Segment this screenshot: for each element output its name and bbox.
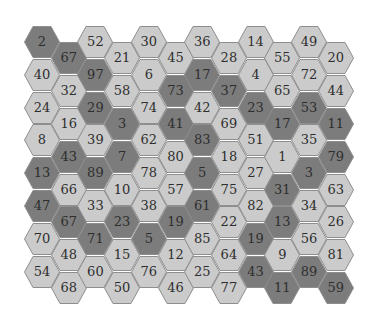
cell-number: 63 [318, 174, 354, 206]
cell-number: 44 [318, 75, 354, 107]
cell-number: 26 [318, 206, 354, 238]
cell-number: 81 [318, 239, 354, 271]
cell-number: 20 [318, 42, 354, 74]
hex-cell[interactable]: 11 [318, 108, 354, 140]
cell-number: 79 [318, 141, 354, 173]
hex-puzzle-board: 2402481347705467321643666748685297293989… [0, 0, 375, 319]
hex-cell[interactable]: 44 [318, 75, 354, 107]
hex-cell[interactable]: 26 [318, 206, 354, 238]
cell-number: 11 [318, 108, 354, 140]
hex-cell[interactable]: 81 [318, 239, 354, 271]
cell-number: 59 [318, 272, 354, 304]
hex-cell[interactable]: 59 [318, 272, 354, 304]
hex-cell[interactable]: 79 [318, 141, 354, 173]
hex-cell[interactable]: 20 [318, 42, 354, 74]
hex-cell[interactable]: 63 [318, 174, 354, 206]
